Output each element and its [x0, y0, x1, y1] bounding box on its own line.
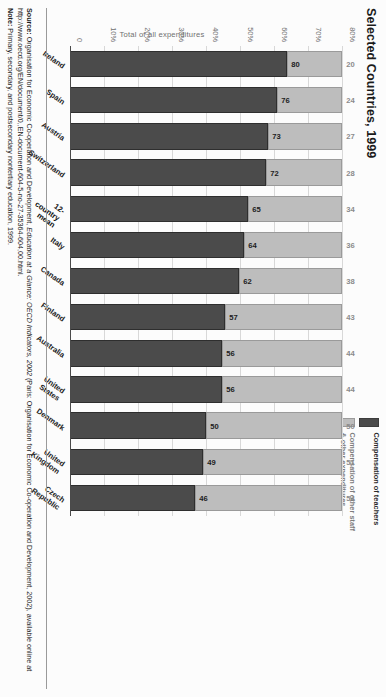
y-axis-tick-label: 40%: [211, 27, 220, 42]
source-divider: [46, 8, 47, 689]
bar-value-label-teachers: 72: [270, 168, 278, 177]
bar-other-expenditures[interactable]: 51: [203, 449, 342, 475]
bar-value-label-teachers: 56: [227, 349, 235, 358]
category-label-text: Australia: [34, 335, 66, 361]
category-label-text: United States: [37, 376, 66, 404]
chart-title: Selected Countries, 1999: [364, 8, 378, 158]
bar-value-label-other: 36: [346, 240, 354, 249]
bar-other-expenditures[interactable]: 54: [195, 485, 342, 511]
bar-series-container: 2080Ireland2476Spain2773Austria2872Switz…: [70, 46, 342, 516]
bar-value-label-other: 44: [346, 349, 354, 358]
y-axis-tick-label: 70%: [313, 27, 322, 42]
y-axis-tick-label: 0: [75, 38, 84, 42]
axis-baseline: [70, 46, 71, 516]
note-label: Note:: [6, 8, 15, 26]
bar-teachers[interactable]: 73: [70, 123, 268, 149]
y-axis-tick-label: 30%: [177, 27, 186, 42]
bar-teachers[interactable]: 64: [70, 232, 244, 258]
bar-value-label-other: 54: [346, 493, 354, 502]
category-label-text: United Kingdom: [29, 443, 66, 476]
bar-other-expenditures[interactable]: 44: [222, 376, 342, 402]
bar-value-label-teachers: 80: [292, 60, 300, 69]
bar-value-label-other: 24: [346, 96, 354, 105]
y-axis-tick-label: 80%: [348, 27, 357, 42]
category-label-text: Finland: [39, 302, 66, 325]
bar-group[interactable]: 4456United States: [70, 371, 342, 407]
rotated-figure-container: Selected Countries, 1999 Compensation of…: [0, 0, 386, 697]
bar-value-label-other: 20: [346, 60, 354, 69]
bar-teachers[interactable]: 57: [70, 304, 225, 330]
y-axis-tick-label: 10%: [109, 27, 118, 42]
bar-group[interactable]: 3862Canada: [70, 263, 342, 299]
bar-group[interactable]: 2476Spain: [70, 82, 342, 118]
note-text: Primary, secondary, and postsecondary no…: [6, 26, 15, 245]
source-label: Source:: [25, 8, 34, 35]
bar-group[interactable]: 5446Czech Republic: [70, 480, 342, 516]
category-label-text: Spain: [44, 88, 66, 107]
bar-value-label-other: 50: [346, 421, 354, 430]
bar-value-label-other: 28: [346, 168, 354, 177]
bar-other-expenditures[interactable]: 50: [206, 412, 342, 438]
bar-group[interactable]: 2872Switzerland: [70, 154, 342, 190]
source-text-1: Organisation for Economic Co-operation a…: [25, 35, 34, 228]
bar-value-label-other: 51: [346, 457, 354, 466]
y-axis-tick-label: 50%: [245, 27, 254, 42]
category-label-text: Ireland: [41, 50, 66, 71]
bar-value-label-other: 34: [346, 204, 354, 213]
bar-value-label-teachers: 62: [243, 277, 251, 286]
bar-value-label-teachers: 56: [227, 385, 235, 394]
bar-other-expenditures[interactable]: 38: [239, 268, 342, 294]
bar-other-expenditures[interactable]: 43: [225, 304, 342, 330]
y-axis-tick-label: 60%: [279, 27, 288, 42]
bar-teachers[interactable]: 50: [70, 412, 206, 438]
bar-value-label-teachers: 57: [229, 313, 237, 322]
bar-value-label-teachers: 50: [210, 421, 218, 430]
bar-value-label-other: 38: [346, 277, 354, 286]
source-line: Source: Organisation for Economic Co-ope…: [15, 8, 34, 689]
bar-teachers[interactable]: 76: [70, 87, 277, 113]
legend-item-teachers: Compensation of teachers: [359, 418, 380, 525]
chart-figure: Selected Countries, 1999 Compensation of…: [0, 0, 386, 697]
bar-value-label-other: 27: [346, 132, 354, 141]
bar-teachers[interactable]: 62: [70, 268, 239, 294]
category-label-text: Canada: [39, 265, 66, 288]
bar-group[interactable]: 2773Austria: [70, 118, 342, 154]
bar-teachers[interactable]: 46: [70, 485, 195, 511]
bar-group[interactable]: 346512-country mean: [70, 191, 342, 227]
bar-group[interactable]: 4456Australia: [70, 335, 342, 371]
bar-value-label-teachers: 64: [248, 240, 256, 249]
plot-area: Total of all expenditures 010%20%30%40%5…: [70, 46, 342, 516]
bar-other-expenditures[interactable]: 36: [244, 232, 342, 258]
bar-value-label-teachers: 49: [208, 457, 216, 466]
bar-value-label-other: 44: [346, 385, 354, 394]
note-line: Note: Primary, secondary, and postsecond…: [6, 8, 15, 689]
bar-teachers[interactable]: 49: [70, 449, 203, 475]
category-label-text: Denmark: [34, 407, 66, 433]
bar-value-label-teachers: 65: [253, 204, 261, 213]
legend-swatch-teachers: [359, 418, 379, 427]
bar-group[interactable]: 2080Ireland: [70, 46, 342, 82]
category-label-text: Czech Republic: [30, 480, 66, 512]
bar-value-label-teachers: 73: [273, 132, 281, 141]
gridline: 80%: [342, 46, 343, 516]
bar-group[interactable]: 5149United Kingdom: [70, 444, 342, 480]
bar-group[interactable]: 5050Denmark: [70, 408, 342, 444]
bar-group[interactable]: 4357Finland: [70, 299, 342, 335]
bar-teachers[interactable]: 72: [70, 159, 266, 185]
bar-other-expenditures[interactable]: 44: [222, 340, 342, 366]
legend-label-teachers: Compensation of teachers: [371, 432, 380, 525]
category-label-text: Austria: [40, 121, 66, 143]
bar-teachers[interactable]: 65: [70, 196, 248, 222]
bar-value-label-teachers: 46: [199, 493, 207, 502]
bar-value-label-other: 43: [346, 313, 354, 322]
bar-teachers[interactable]: 56: [70, 340, 222, 366]
bar-teachers[interactable]: 56: [70, 376, 222, 402]
bar-teachers[interactable]: 80: [70, 51, 287, 77]
bar-other-expenditures[interactable]: 34: [248, 196, 342, 222]
source-note-block: Source: Organisation for Economic Co-ope…: [6, 8, 34, 689]
bar-group[interactable]: 3664Italy: [70, 227, 342, 263]
y-axis-tick-label: 20%: [143, 27, 152, 42]
source-title-italic: Education at a Glance: OECD Indicators, …: [25, 227, 34, 376]
y-axis-title: Total of all expenditures: [26, 30, 298, 39]
bar-value-label-teachers: 76: [281, 96, 289, 105]
